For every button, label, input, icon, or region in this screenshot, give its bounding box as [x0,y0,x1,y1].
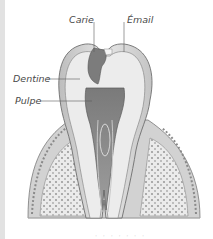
tooth-cross-section-diagram [0,0,213,239]
label-pulpe: Pulpe [15,96,41,106]
label-email: Émail [127,15,153,25]
label-dentine: Dentine [13,74,50,84]
faded-caption: · · · · · · · [95,232,146,239]
label-carie: Carie [69,15,94,25]
